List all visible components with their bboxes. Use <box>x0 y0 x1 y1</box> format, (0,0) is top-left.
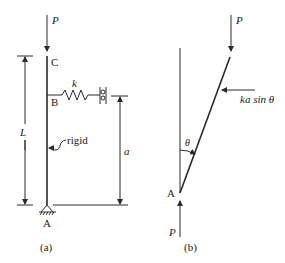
load-label: P <box>51 14 59 26</box>
pivot-point-label: A <box>167 187 175 199</box>
spring-force-label: ka sin θ <box>240 93 275 105</box>
figure-b: P ka sin θ θ A P (b) <box>167 14 275 254</box>
rigid-note: rigid <box>67 134 88 146</box>
buckling-diagram: P C B k L a rigid <box>0 0 285 263</box>
rotated-bar <box>180 57 230 193</box>
spring-height-label: a <box>124 145 130 157</box>
roller-support-icon <box>100 87 106 104</box>
point-a-label: A <box>43 217 51 229</box>
top-load-label: P <box>235 14 243 26</box>
spring-label: k <box>72 77 78 89</box>
point-b-label: B <box>51 96 58 108</box>
figure-a: P C B k L a rigid <box>17 14 130 254</box>
bottom-load-label: P <box>168 226 176 238</box>
pin-support-icon <box>39 205 56 215</box>
figure-b-caption: (b) <box>184 241 197 254</box>
length-label: L <box>19 126 26 138</box>
point-c-label: C <box>51 56 58 68</box>
angle-label: θ <box>185 137 190 148</box>
figure-a-caption: (a) <box>40 241 53 254</box>
angle-arc-icon <box>180 150 195 154</box>
leader-arrow-icon <box>49 140 66 150</box>
